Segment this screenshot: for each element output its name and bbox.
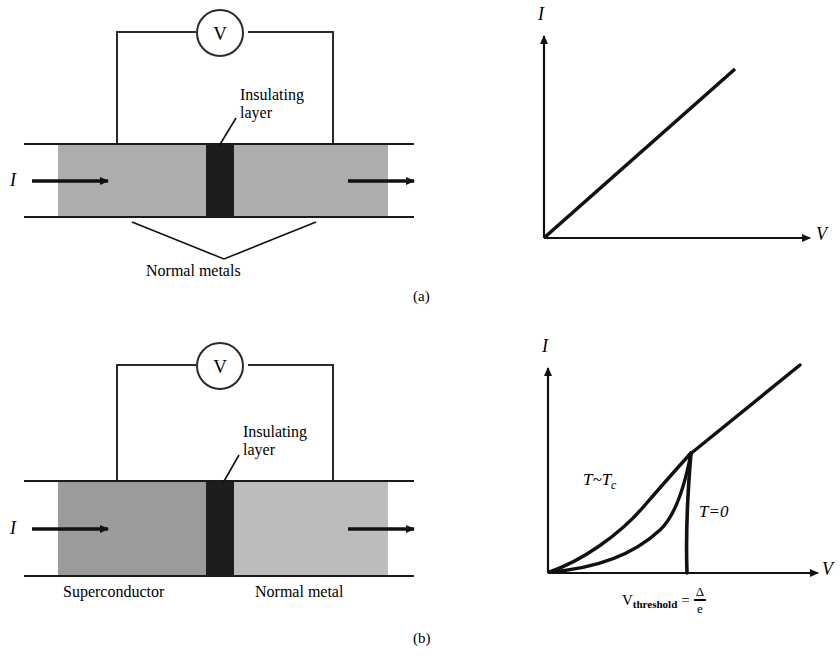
chart-a-ylabel: I bbox=[538, 4, 544, 25]
chart-b-ylabel: I bbox=[542, 336, 548, 357]
current-label-b: I bbox=[10, 518, 16, 538]
slab-b bbox=[58, 482, 388, 575]
normal-metal-label-b: Normal metal bbox=[255, 583, 343, 601]
insulating-layer-line1-b: Insulating bbox=[243, 423, 307, 441]
threshold-v-symbol: V bbox=[622, 592, 633, 609]
wire-left-horizontal-a bbox=[116, 31, 196, 33]
wire-left-horizontal-b bbox=[116, 364, 196, 366]
insulating-layer-label-b: Insulating layer bbox=[243, 423, 307, 459]
wire-left-vertical-a bbox=[116, 31, 118, 144]
threshold-equals: = bbox=[681, 592, 689, 609]
figure-root: V bbox=[0, 0, 840, 666]
chart-b: I V T~Tc T=0 Vthreshold= Δ e bbox=[470, 330, 840, 650]
panel-caption-b: (b) bbox=[413, 630, 431, 647]
normal-metals-label-a: Normal metals bbox=[146, 262, 241, 280]
voltmeter-label-b: V bbox=[213, 357, 227, 376]
insulating-layer-line2-a: layer bbox=[240, 104, 304, 122]
insulating-layer-line2-b: layer bbox=[243, 441, 307, 459]
curve-label-t-near-tc-subscript: c bbox=[611, 478, 616, 492]
threshold-voltage-label: Vthreshold= Δ e bbox=[622, 586, 706, 616]
current-label-a: I bbox=[10, 170, 16, 190]
chart-a: I V bbox=[470, 0, 840, 290]
insulating-layer-line1-a: Insulating bbox=[240, 86, 304, 104]
panel-caption-a: (a) bbox=[413, 288, 430, 305]
slab-bottom-edge-b bbox=[24, 575, 414, 577]
wire-left-vertical-b bbox=[116, 364, 118, 481]
voltmeter-b: V bbox=[196, 342, 244, 390]
wire-right-horizontal-a bbox=[248, 31, 334, 33]
panel-b: V I Insulating bbox=[0, 330, 460, 666]
threshold-fraction-denominator: e bbox=[695, 602, 705, 615]
curve-label-t-near-tc-text: T~T bbox=[583, 470, 611, 489]
insulating-barrier-b bbox=[206, 482, 234, 575]
threshold-fraction: Δ e bbox=[694, 585, 706, 615]
chart-b-xlabel: V bbox=[822, 559, 833, 580]
wire-right-vertical-b bbox=[332, 364, 334, 481]
chart-a-xlabel: V bbox=[816, 224, 827, 245]
superconductor-label-b: Superconductor bbox=[63, 583, 164, 601]
chart-a-svg bbox=[470, 0, 840, 290]
slab-left-material-a bbox=[58, 145, 206, 216]
insulating-layer-label-a: Insulating layer bbox=[240, 86, 304, 122]
curve-label-t-near-tc: T~Tc bbox=[583, 470, 616, 490]
slab-right-material-a bbox=[234, 145, 388, 216]
wire-right-vertical-a bbox=[332, 31, 334, 144]
threshold-fraction-numerator: Δ bbox=[694, 585, 706, 598]
slab-a bbox=[58, 145, 388, 216]
voltmeter-a: V bbox=[196, 9, 244, 57]
wire-right-horizontal-b bbox=[248, 364, 334, 366]
device-diagram-b: V I Insulating bbox=[0, 330, 460, 630]
threshold-subscript: threshold bbox=[633, 598, 677, 610]
curve-label-t-zero: T=0 bbox=[699, 502, 728, 522]
panel-a: V bbox=[0, 0, 460, 320]
slab-bottom-edge-a bbox=[24, 216, 414, 218]
voltmeter-label-a: V bbox=[213, 24, 227, 43]
insulating-barrier-a bbox=[206, 145, 234, 216]
device-diagram-a: V bbox=[0, 0, 460, 300]
slab-superconductor-b bbox=[58, 482, 206, 575]
slab-normal-metal-b bbox=[234, 482, 388, 575]
